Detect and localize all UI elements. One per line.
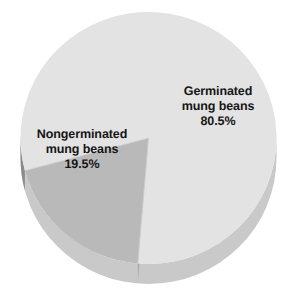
pie-label-germinated-value: 80.5%: [168, 114, 268, 129]
pie-label-germinated: Germinated mung beans 80.5%: [168, 84, 268, 129]
pie-label-nongerminated-value: 19.5%: [22, 157, 142, 172]
pie-chart: Germinated mung beans 80.5% Nongerminate…: [0, 0, 289, 290]
pie-label-nongerminated-line2: mung beans: [22, 142, 142, 157]
pie-label-germinated-line2: mung beans: [168, 99, 268, 114]
pie-label-nongerminated-line1: Nongerminated: [22, 127, 142, 142]
pie-label-nongerminated: Nongerminated mung beans 19.5%: [22, 127, 142, 172]
pie-label-germinated-line1: Germinated: [168, 84, 268, 99]
